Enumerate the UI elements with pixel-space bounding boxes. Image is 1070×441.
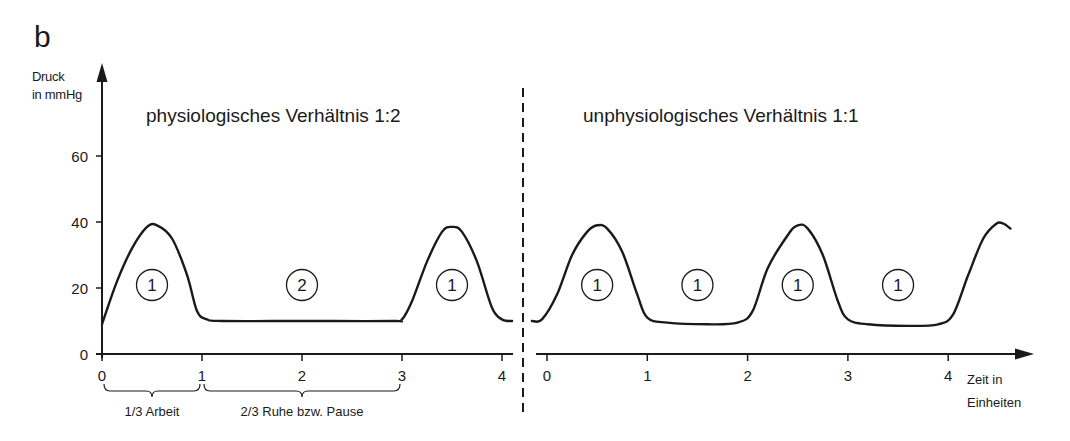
panel-title-physiological: physiologisches Verhältnis 1:2 xyxy=(146,105,401,126)
phase-marker-number: 1 xyxy=(793,276,802,295)
panel-label: b xyxy=(34,20,51,53)
y-tick-label: 40 xyxy=(71,214,88,231)
phase-marker-number: 1 xyxy=(147,276,156,295)
y-axis-arrow-icon xyxy=(97,63,108,82)
y-axis-label-line-1: Druck xyxy=(32,69,65,84)
x-ticks-left: 01234 xyxy=(98,354,506,384)
x-tick-label: 0 xyxy=(98,367,106,384)
x-axis-label-line-2: Einheiten xyxy=(967,395,1021,410)
x-tick-label: 2 xyxy=(298,367,306,384)
phase-braces: 1/3 Arbeit2/3 Ruhe bzw. Pause xyxy=(104,384,400,419)
panel-title-unphysiological: unphysiologisches Verhältnis 1:1 xyxy=(583,105,859,126)
x-tick-label: 3 xyxy=(398,367,406,384)
x-axis-arrow-icon xyxy=(1015,349,1034,360)
pressure-curve-unphysiological xyxy=(532,222,1010,326)
y-ticks: 0204060 xyxy=(71,148,102,363)
x-tick-label: 4 xyxy=(498,367,506,384)
y-tick-label: 0 xyxy=(80,346,88,363)
phase-brace xyxy=(204,384,400,397)
x-axis-label-line-1: Zeit in xyxy=(967,372,1002,387)
phase-marker-number: 1 xyxy=(893,276,902,295)
x-tick-label: 1 xyxy=(643,367,651,384)
x-tick-label: 4 xyxy=(944,367,952,384)
phase-marker-number: 1 xyxy=(447,276,456,295)
panel-unphysiological: unphysiologisches Verhältnis 1:1 01234 1… xyxy=(532,105,1034,410)
phase-brace-label: 1/3 Arbeit xyxy=(125,404,180,419)
x-tick-label: 0 xyxy=(543,367,551,384)
phase-brace xyxy=(104,384,200,397)
y-axis-label-line-2: in mmHg xyxy=(32,87,82,102)
x-tick-label: 3 xyxy=(844,367,852,384)
phase-marker-number: 2 xyxy=(297,276,306,295)
y-tick-label: 60 xyxy=(71,148,88,165)
x-ticks-right: 01234 xyxy=(543,354,953,384)
panel-physiological: physiologisches Verhältnis 1:2 01234 121… xyxy=(96,105,513,419)
x-tick-label: 1 xyxy=(198,367,206,384)
phase-marker-number: 1 xyxy=(592,276,601,295)
x-tick-label: 2 xyxy=(743,367,751,384)
phase-brace-label: 2/3 Ruhe bzw. Pause xyxy=(241,404,364,419)
y-tick-label: 20 xyxy=(71,280,88,297)
pressure-chart: b Druck in mmHg 0204060 physiologisches … xyxy=(0,0,1070,441)
phase-marker-number: 1 xyxy=(693,276,702,295)
